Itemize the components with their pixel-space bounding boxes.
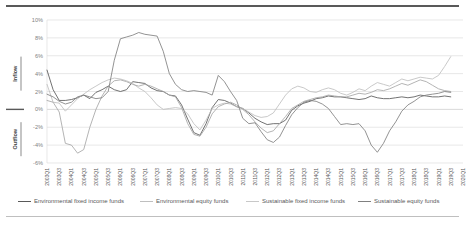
legend-line-icon xyxy=(18,201,31,202)
x-tick-label: 2015Q1 xyxy=(338,168,344,186)
legend-item[interactable]: Environmental equity funds xyxy=(140,198,228,204)
x-tick-label: 2013Q3 xyxy=(301,168,307,186)
x-tick-label: 2005Q3 xyxy=(105,168,111,186)
x-tick-label: 2018Q3 xyxy=(423,168,429,186)
flow-annotation-outflow: Outflow xyxy=(12,128,18,149)
y-tick-label: 8% xyxy=(35,35,43,41)
y-tick-label: 2% xyxy=(35,89,43,95)
x-tick-label: 2007Q1 xyxy=(142,168,148,186)
x-tick-label: 2011Q1 xyxy=(240,168,246,185)
x-tick-label: 2015Q3 xyxy=(350,168,356,186)
legend-item[interactable]: Sustainable equity funds xyxy=(358,198,439,204)
series-line xyxy=(47,57,451,130)
legend-item[interactable]: Sustainable fixed income funds xyxy=(246,198,345,204)
x-axis-labels: 2003Q12003Q32004Q12004Q32005Q12005Q32006… xyxy=(0,168,465,196)
x-tick-label: 2012Q1 xyxy=(264,168,270,186)
x-tick-label: 2009Q1 xyxy=(191,168,197,186)
plot-area: 10%8%6%4%2%0%-2%-4%-6% InflowOutflow xyxy=(0,10,465,170)
bottom-divider xyxy=(6,216,459,217)
x-tick-label: 2010Q1 xyxy=(215,168,221,186)
legend-line-icon xyxy=(246,201,259,202)
chart-legend: Environmental fixed income fundsEnvironm… xyxy=(0,196,465,210)
top-divider xyxy=(6,5,459,7)
legend-line-icon xyxy=(140,201,153,202)
flow-annotations: InflowOutflow xyxy=(6,57,24,157)
y-tick-label: 4% xyxy=(35,71,43,77)
x-tick-label: 2014Q1 xyxy=(313,168,319,186)
series-layer xyxy=(47,33,451,154)
flow-annotation-inflow: Inflow xyxy=(12,65,18,82)
x-tick-label: 2013Q1 xyxy=(289,168,295,186)
line-chart: 10%8%6%4%2%0%-2%-4%-6% InflowOutflow xyxy=(0,10,465,170)
x-tick-label: 2019Q1 xyxy=(436,168,442,186)
y-tick-label: -4% xyxy=(33,142,43,148)
x-tick-label: 2010Q3 xyxy=(228,168,234,186)
series-line xyxy=(47,33,451,153)
legend-label: Environmental equity funds xyxy=(156,198,228,204)
y-tick-label: 10% xyxy=(32,17,43,23)
y-tick-label: 6% xyxy=(35,53,43,59)
x-tick-label: 2006Q3 xyxy=(130,168,136,186)
legend-item[interactable]: Environmental fixed income funds xyxy=(18,198,124,204)
x-tick-label: 2012Q3 xyxy=(276,168,282,186)
legend-label: Environmental fixed income funds xyxy=(34,198,124,204)
legend-label: Sustainable fixed income funds xyxy=(262,198,345,204)
x-tick-label: 2006Q1 xyxy=(117,168,123,186)
x-tick-label: 2005Q1 xyxy=(93,168,99,186)
x-tick-label: 2020Q1 xyxy=(460,168,466,186)
x-tick-label: 2004Q3 xyxy=(81,168,87,186)
y-tick-label: 0% xyxy=(35,106,43,112)
x-tick-label: 2014Q3 xyxy=(325,168,331,186)
x-tick-label: 2019Q3 xyxy=(448,168,454,186)
x-tick-label: 2008Q1 xyxy=(166,168,172,186)
x-tick-label: 2016Q1 xyxy=(362,168,368,186)
series-line xyxy=(47,80,451,153)
x-tick-label: 2003Q1 xyxy=(44,168,50,186)
x-tick-label: 2009Q3 xyxy=(203,168,209,186)
x-tick-label: 2008Q3 xyxy=(179,168,185,186)
y-tick-label: -2% xyxy=(33,124,43,130)
x-tick-label: 2017Q1 xyxy=(387,168,393,186)
x-tick-label: 2011Q3 xyxy=(252,168,258,185)
x-tick-label: 2004Q1 xyxy=(68,168,74,186)
x-tick-label: 2018Q1 xyxy=(411,168,417,186)
x-tick-label: 2003Q3 xyxy=(56,168,62,186)
legend-line-icon xyxy=(358,201,371,202)
legend-label: Sustainable equity funds xyxy=(374,198,439,204)
x-tick-label: 2007Q3 xyxy=(154,168,160,186)
y-tick-label: -6% xyxy=(33,160,43,166)
x-tick-label: 2017Q3 xyxy=(399,168,405,186)
y-axis-labels: 10%8%6%4%2%0%-2%-4%-6% xyxy=(32,17,43,166)
x-tick-label: 2016Q3 xyxy=(374,168,380,186)
gridlines xyxy=(47,20,463,163)
